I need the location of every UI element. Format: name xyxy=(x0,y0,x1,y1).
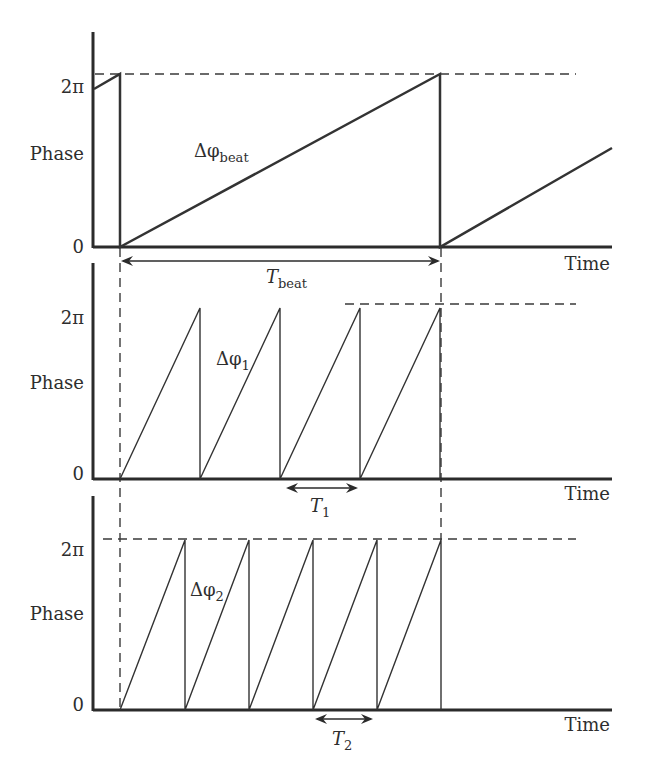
y-axis-label: Phase xyxy=(30,372,84,393)
signal-1-sawtooth xyxy=(120,308,440,479)
y-axis-label: Phase xyxy=(30,603,84,624)
period-label-2: T2 xyxy=(332,728,352,753)
y-tick-2pi: 2π xyxy=(61,307,84,328)
y-tick-zero: 0 xyxy=(73,236,84,257)
y-tick-2pi: 2π xyxy=(61,539,84,560)
period-label-beat: Tbeat xyxy=(266,266,308,291)
y-axis-label: Phase xyxy=(30,143,84,164)
curve-label-beat: Δφbeat xyxy=(194,140,249,165)
curve-label-signal-2: Δφ2 xyxy=(190,579,224,604)
y-tick-zero: 0 xyxy=(73,463,84,484)
panel-signal-2: 2π Phase 0 Time Δφ2 T2 xyxy=(30,496,612,753)
x-axis-label: Time xyxy=(565,253,610,274)
x-axis-label: Time xyxy=(565,714,610,735)
y-tick-zero: 0 xyxy=(73,694,84,715)
panel-signal-1: 2π Phase 0 Time Δφ1 T1 xyxy=(30,263,612,520)
y-tick-2pi: 2π xyxy=(61,76,84,97)
beat-sawtooth xyxy=(94,74,612,247)
phase-diagram: 2π Phase 0 Time Δφbeat Tbeat 2π Phase 0 … xyxy=(0,0,647,777)
x-axis-label: Time xyxy=(565,483,610,504)
curve-label-signal-1: Δφ1 xyxy=(216,348,250,373)
signal-2-sawtooth xyxy=(120,540,441,710)
period-label-1: T1 xyxy=(310,495,330,520)
panel-beat: 2π Phase 0 Time Δφbeat Tbeat xyxy=(30,32,612,291)
